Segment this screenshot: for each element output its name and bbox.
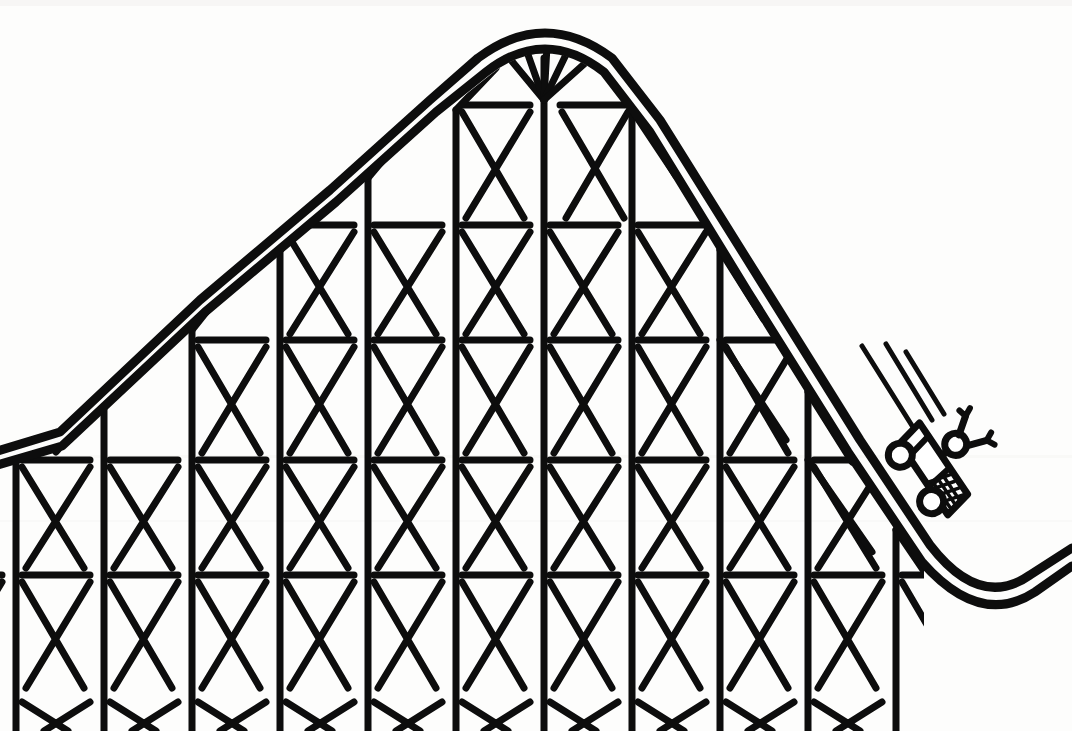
track-double-line xyxy=(0,33,1072,605)
roller-coaster-drawing xyxy=(0,0,1072,731)
rider-neck xyxy=(942,451,948,456)
rider-arm-right xyxy=(968,435,986,450)
rider-hand-right xyxy=(985,433,998,447)
track-rail-outer xyxy=(0,33,1072,587)
speed-lines xyxy=(862,344,944,432)
rider-hand-left xyxy=(959,405,972,417)
illustration-canvas xyxy=(0,0,1072,731)
